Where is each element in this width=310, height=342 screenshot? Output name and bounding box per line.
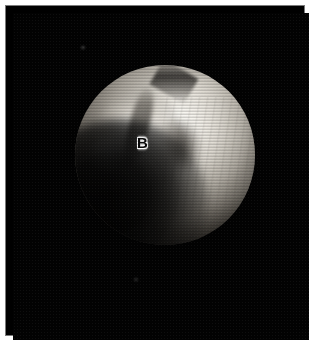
figure-root: B [0, 0, 310, 342]
photograph-field: B [13, 13, 309, 340]
rim-vignette [75, 65, 255, 245]
plate-frame: B [5, 5, 305, 336]
dust-speck-lower-centre [134, 278, 138, 281]
arthroscopic-field-of-view [75, 65, 255, 245]
dust-speck-upper-left [81, 46, 85, 49]
panel-label-b: B [137, 135, 148, 150]
